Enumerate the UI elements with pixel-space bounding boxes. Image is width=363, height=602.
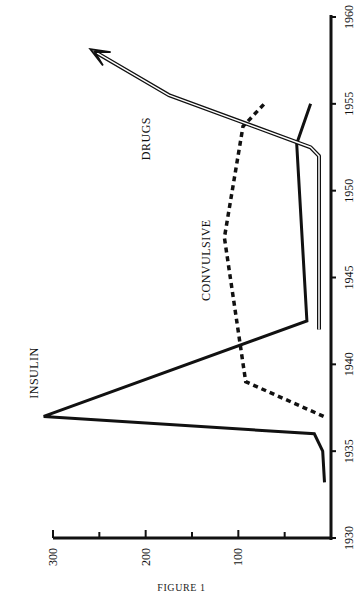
label-convulsive: CONVULSIVE xyxy=(199,219,213,301)
year-tick-label: 1955 xyxy=(342,92,356,116)
figure-caption: FIGURE 1 xyxy=(0,582,363,593)
year-tick-label: 1935 xyxy=(342,439,356,463)
line-chart: 1930193519401945195019551960100200300 IN… xyxy=(0,0,363,602)
value-tick-label: 300 xyxy=(46,548,60,566)
series-labels: INSULINCONVULSIVEDRUGS xyxy=(27,117,212,399)
axes xyxy=(53,15,332,540)
year-tick-label: 1940 xyxy=(342,352,356,376)
insulin-series xyxy=(44,104,325,483)
convulsive-series xyxy=(224,104,323,417)
value-tick-label: 100 xyxy=(231,548,245,566)
year-tick-label: 1945 xyxy=(342,266,356,290)
year-tick-label: 1960 xyxy=(342,5,356,29)
year-tick-label: 1950 xyxy=(342,179,356,203)
series-lines xyxy=(44,49,325,482)
label-drugs: DRUGS xyxy=(139,117,153,160)
value-tick-label: 200 xyxy=(139,548,153,566)
label-insulin: INSULIN xyxy=(27,347,41,399)
year-tick-label: 1930 xyxy=(342,526,356,550)
